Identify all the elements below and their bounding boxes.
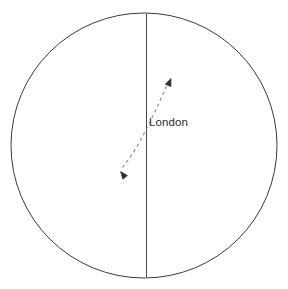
globe-diagram-canvas: London <box>0 0 288 289</box>
earth-outline-circle <box>11 13 277 278</box>
diagram-svg: London <box>0 0 288 289</box>
city-label-london: London <box>149 116 188 128</box>
